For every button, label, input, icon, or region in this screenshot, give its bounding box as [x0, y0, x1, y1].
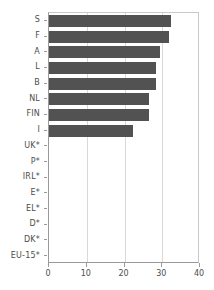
bar-row	[49, 201, 198, 217]
y-axis-tick	[44, 83, 47, 84]
y-axis-tick-label: I	[0, 122, 44, 138]
bar-row	[49, 217, 198, 233]
y-axis-tick-label: EU-15*	[0, 247, 44, 263]
y-axis-tick-label: EL*	[0, 200, 44, 216]
bar-row	[49, 107, 198, 123]
y-axis-tick-label: NL	[0, 90, 44, 106]
y-axis-tick	[44, 255, 47, 256]
bar-row	[49, 186, 198, 202]
y-axis-tick	[44, 192, 47, 193]
bar-row	[49, 154, 198, 170]
bar	[49, 62, 156, 74]
y-axis-tick	[44, 130, 47, 131]
bar-row	[49, 248, 198, 264]
y-axis-tick-label: B	[0, 75, 44, 91]
bar-series	[49, 13, 198, 262]
x-axis-tick	[48, 263, 49, 267]
y-axis-tick-label: P*	[0, 153, 44, 169]
y-axis-tick	[44, 36, 47, 37]
x-axis-tick	[86, 263, 87, 267]
x-axis: 010203040	[48, 263, 199, 287]
bar	[49, 125, 133, 137]
y-axis-tick	[44, 224, 47, 225]
y-axis-tick-label: F	[0, 28, 44, 44]
bar-row	[49, 233, 198, 249]
bar-row	[49, 60, 198, 76]
y-axis-tick-label: S	[0, 12, 44, 28]
y-axis-tick	[44, 98, 47, 99]
y-axis-tick	[44, 177, 47, 178]
bar	[49, 93, 149, 105]
bar	[49, 109, 149, 121]
x-axis-tick	[124, 263, 125, 267]
y-axis-tick	[44, 145, 47, 146]
y-axis-tick-label: D*	[0, 216, 44, 232]
y-axis-tick	[44, 208, 47, 209]
y-axis-tick-label: FIN	[0, 106, 44, 122]
bar	[49, 31, 169, 43]
bar-row	[49, 91, 198, 107]
bar-chart: SFALBNLFINIUK*P*IRL*E*EL*D*DK*EU-15* 010…	[0, 0, 214, 290]
y-axis-tick-label: E*	[0, 185, 44, 201]
plot-area	[48, 12, 199, 263]
bar	[49, 46, 160, 58]
bar-row	[49, 13, 198, 29]
x-axis-tick-label: 0	[45, 269, 50, 278]
y-axis-tick	[44, 51, 47, 52]
bar	[49, 78, 156, 90]
y-axis-tick	[44, 67, 47, 68]
y-axis-tick	[44, 114, 47, 115]
bar-row	[49, 139, 198, 155]
bar-row	[49, 44, 198, 60]
y-axis-tick	[44, 239, 47, 240]
bar-row	[49, 170, 198, 186]
y-axis-tick-label: UK*	[0, 138, 44, 154]
x-axis-tick-label: 20	[118, 269, 128, 278]
y-axis-labels: SFALBNLFINIUK*P*IRL*E*EL*D*DK*EU-15*	[0, 12, 44, 263]
x-axis-tick-label: 10	[81, 269, 91, 278]
y-axis-tick	[44, 20, 47, 21]
y-axis-tick-label: IRL*	[0, 169, 44, 185]
y-axis-tick	[44, 161, 47, 162]
x-axis-tick	[199, 263, 200, 267]
x-axis-tick	[161, 263, 162, 267]
bar-row	[49, 123, 198, 139]
bar	[49, 15, 171, 27]
x-axis-tick-label: 40	[194, 269, 204, 278]
y-axis-tick-label: L	[0, 59, 44, 75]
bar-row	[49, 29, 198, 45]
y-axis-tick-label: DK*	[0, 232, 44, 248]
y-axis-tick-label: A	[0, 43, 44, 59]
bar-row	[49, 76, 198, 92]
x-axis-tick-label: 30	[156, 269, 166, 278]
